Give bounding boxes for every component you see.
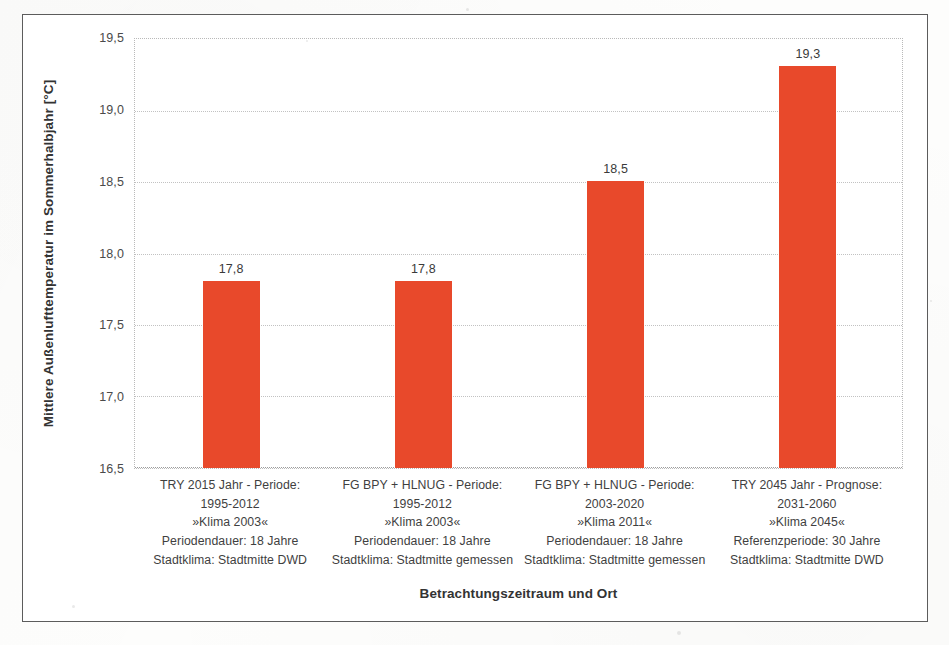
bar-series-item[interactable] bbox=[395, 281, 452, 468]
chart-page: Mittlere Außenlufttemperatur im Sommerha… bbox=[0, 0, 949, 645]
y-tick-label: 17,5 bbox=[99, 318, 124, 332]
bar-series-item[interactable] bbox=[779, 66, 836, 468]
category-label-line: Referenzperiode: 30 Jahre bbox=[712, 532, 902, 551]
y-axis-tick-labels: 19,5 19,0 18,5 18,0 17,5 17,0 16,5 bbox=[78, 38, 128, 469]
category-label-line: »Klima 2045« bbox=[712, 513, 902, 532]
category-label: TRY 2015 Jahr - Periode: 1995-2012 »Klim… bbox=[134, 476, 326, 586]
category-label-line: 2003-2020 bbox=[520, 495, 710, 514]
y-tick-label: 16,5 bbox=[99, 462, 124, 476]
category-label-line: »Klima 2011« bbox=[520, 513, 710, 532]
plot-area: 17,8 17,8 18,5 19,3 bbox=[134, 38, 903, 469]
bar-series-item[interactable] bbox=[203, 281, 260, 468]
bar-value-label: 18,5 bbox=[576, 162, 656, 176]
category-label-line: Stadtklima: Stadtmitte gemessen bbox=[327, 551, 517, 570]
category-label-line: 2031-2060 bbox=[712, 495, 902, 514]
category-label-line: FG BPY + HLNUG - Periode: bbox=[327, 476, 517, 495]
scan-speckle bbox=[677, 631, 681, 635]
category-label-line: Stadtklima: Stadtmitte DWD bbox=[135, 551, 325, 570]
bar-value-label: 17,8 bbox=[383, 262, 463, 276]
y-tick-label: 19,5 bbox=[99, 31, 124, 45]
category-label-line: TRY 2045 Jahr - Prognose: bbox=[712, 476, 902, 495]
category-label: FG BPY + HLNUG - Periode: 1995-2012 »Kli… bbox=[326, 476, 518, 586]
scan-speckle bbox=[466, 8, 469, 11]
category-label-line: 1995-2012 bbox=[135, 495, 325, 514]
category-label-line: »Klima 2003« bbox=[327, 513, 517, 532]
category-label-line: 1995-2012 bbox=[327, 495, 517, 514]
category-label-line: FG BPY + HLNUG - Periode: bbox=[520, 476, 710, 495]
category-label: TRY 2045 Jahr - Prognose: 2031-2060 »Kli… bbox=[711, 476, 903, 586]
y-tick-label: 18,5 bbox=[99, 175, 124, 189]
scan-speckle bbox=[930, 300, 932, 302]
y-tick-label: 18,0 bbox=[99, 247, 124, 261]
category-label-line: Periodendauer: 18 Jahre bbox=[327, 532, 517, 551]
category-label-line: Periodendauer: 18 Jahre bbox=[520, 532, 710, 551]
category-label-line: Stadtklima: Stadtmitte gemessen bbox=[520, 551, 710, 570]
category-label-line: TRY 2015 Jahr - Periode: bbox=[135, 476, 325, 495]
category-label-line: Periodendauer: 18 Jahre bbox=[135, 532, 325, 551]
category-label-line: Stadtklima: Stadtmitte DWD bbox=[712, 551, 902, 570]
category-label-line: »Klima 2003« bbox=[135, 513, 325, 532]
y-axis-title: Mittlere Außenlufttemperatur im Sommerha… bbox=[34, 38, 62, 469]
y-tick-label: 17,0 bbox=[99, 390, 124, 404]
bar-series-item[interactable] bbox=[587, 181, 644, 468]
x-axis-title: Betrachtungszeitraum und Ort bbox=[134, 586, 903, 601]
x-axis-category-labels: TRY 2015 Jahr - Periode: 1995-2012 »Klim… bbox=[134, 476, 903, 586]
y-tick-label: 19,0 bbox=[99, 103, 124, 117]
bar-value-label: 17,8 bbox=[191, 262, 271, 276]
bar-value-label: 19,3 bbox=[768, 47, 848, 61]
category-label: FG BPY + HLNUG - Periode: 2003-2020 »Kli… bbox=[519, 476, 711, 586]
